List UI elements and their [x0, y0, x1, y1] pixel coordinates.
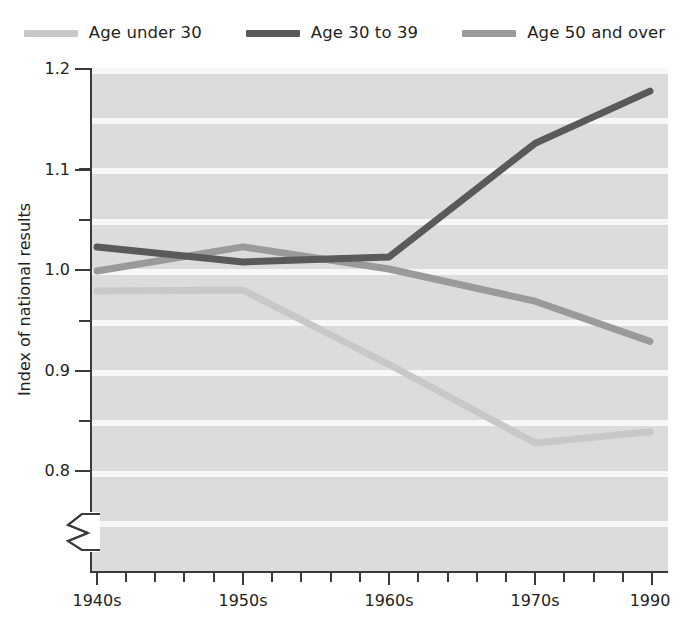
gridline: [91, 521, 668, 527]
gridline: [91, 471, 668, 477]
legend-label-age-50-and-over: Age 50 and over: [527, 25, 665, 42]
gridline: [91, 68, 668, 74]
chart-legend: Age under 30 Age 30 to 39 Age 50 and ove…: [0, 18, 689, 48]
x-tick-minor: [593, 573, 595, 582]
y-tick-minor: [79, 420, 91, 422]
y-tick-major: [75, 470, 91, 472]
x-tick-major: [242, 573, 244, 585]
x-tick-minor: [447, 573, 449, 582]
x-tick-label: 1940s: [72, 591, 121, 610]
x-tick-major: [651, 573, 653, 585]
gridline: [91, 269, 668, 275]
x-tick-minor: [359, 573, 361, 582]
y-tick-minor: [79, 320, 91, 322]
legend-label-age-under-30: Age under 30: [89, 25, 202, 42]
x-tick-minor: [125, 573, 127, 582]
x-tick-minor: [154, 573, 156, 582]
x-tick-minor: [505, 573, 507, 582]
y-axis-title: Index of national results: [15, 145, 34, 455]
x-tick-minor: [271, 573, 273, 582]
legend-swatch-age-30-to-39: [246, 30, 300, 37]
y-axis-line: [90, 68, 92, 520]
x-tick-minor: [563, 573, 565, 582]
y-tick-major: [75, 169, 91, 171]
x-tick-minor: [417, 573, 419, 582]
x-axis-line: [90, 571, 668, 573]
x-tick-minor: [330, 573, 332, 582]
gridline: [91, 219, 668, 225]
y-tick-label: 0.8: [26, 461, 70, 480]
legend-item-age-50-and-over[interactable]: Age 50 and over: [462, 25, 665, 42]
y-tick-major: [75, 68, 91, 70]
x-tick-label: 1990: [630, 591, 671, 610]
axis-break-icon: [64, 512, 100, 552]
legend-item-age-under-30[interactable]: Age under 30: [24, 25, 202, 42]
x-tick-minor: [476, 573, 478, 582]
x-tick-minor: [213, 573, 215, 582]
y-tick-major: [75, 269, 91, 271]
x-tick-major: [534, 573, 536, 585]
line-chart: Age under 30 Age 30 to 39 Age 50 and ove…: [0, 0, 689, 636]
gridline: [91, 118, 668, 124]
legend-label-age-30-to-39: Age 30 to 39: [311, 25, 418, 42]
y-tick-major: [75, 370, 91, 372]
gridline: [91, 420, 668, 426]
legend-swatch-age-under-30: [24, 30, 78, 37]
gridline: [91, 168, 668, 174]
x-tick-major: [96, 573, 98, 585]
legend-item-age-30-to-39[interactable]: Age 30 to 39: [246, 25, 418, 42]
plot-area: [91, 68, 668, 572]
y-tick-label: 1.2: [26, 59, 70, 78]
x-tick-label: 1970s: [510, 591, 559, 610]
y-tick-minor: [79, 219, 91, 221]
x-tick-label: 1950s: [218, 591, 267, 610]
x-tick-label: 1960s: [364, 591, 413, 610]
x-tick-major: [388, 573, 390, 585]
gridline: [91, 320, 668, 326]
x-tick-minor: [183, 573, 185, 582]
legend-swatch-age-50-and-over: [462, 30, 516, 37]
x-tick-minor: [622, 573, 624, 582]
x-tick-minor: [300, 573, 302, 582]
gridline: [91, 370, 668, 376]
